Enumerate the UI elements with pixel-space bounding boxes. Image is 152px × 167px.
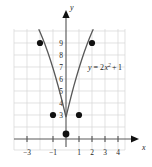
y-tick-label: 3 xyxy=(59,111,63,120)
data-point xyxy=(76,112,82,118)
parabola-graph-figure: y x −3 −1 1 2 3 4 3 4 5 6 7 8 9 xyxy=(0,0,152,167)
data-point xyxy=(50,112,56,118)
x-axis-arrowhead xyxy=(131,135,139,142)
equation-lhs: y xyxy=(87,63,92,72)
x-axis-label: x xyxy=(141,143,146,152)
x-tick-label: 4 xyxy=(116,148,120,157)
y-tick-label: 9 xyxy=(59,39,63,48)
data-point xyxy=(63,131,70,138)
equation-equals: = xyxy=(94,63,99,72)
data-point xyxy=(89,40,95,46)
equation-plus: + xyxy=(112,63,117,72)
y-axis-label: y xyxy=(69,3,74,12)
x-tick-label: 1 xyxy=(77,148,81,157)
y-axis-arrowhead xyxy=(62,10,69,18)
equation-exponent: 2 xyxy=(108,62,111,68)
y-tick-label: 6 xyxy=(59,75,63,84)
graph-svg: y x −3 −1 1 2 3 4 3 4 5 6 7 8 9 xyxy=(0,0,152,167)
equation-constant: 1 xyxy=(118,63,122,72)
y-tick-label: 7 xyxy=(59,63,63,72)
x-tick-labels: −3 −1 1 2 3 4 xyxy=(23,148,120,157)
data-point xyxy=(37,40,43,46)
y-tick-label: 8 xyxy=(59,51,63,60)
x-tick-label: 3 xyxy=(103,148,107,157)
grid-lines xyxy=(14,29,125,150)
x-tick-label: −1 xyxy=(49,148,57,157)
y-tick-labels: 3 4 5 6 7 8 9 xyxy=(59,39,63,120)
x-tick-label: −3 xyxy=(23,148,31,157)
x-tick-label: 2 xyxy=(90,148,94,157)
